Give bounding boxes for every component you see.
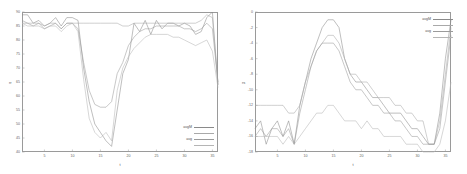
y-tick-label: 0 (251, 10, 253, 14)
x-tick-label: 15 (331, 154, 335, 158)
y-tick-label: 40 (16, 150, 20, 154)
x-tick-label: 10 (303, 154, 307, 158)
x-tick-label: 30 (415, 154, 419, 158)
right-panel: 51015202530350-2-4-6-8-10-12-14-16-18 t … (233, 0, 467, 174)
series-line-avg (22, 20, 218, 107)
x-tick-label: 25 (387, 154, 391, 158)
legend-label: avg (172, 137, 194, 141)
x-tick-label: 15 (98, 154, 102, 158)
y-tick-label: 85 (16, 24, 20, 28)
y-tick-label: -14 (248, 119, 253, 123)
legend-swatch (194, 145, 214, 146)
y-tick-label: -4 (250, 41, 253, 45)
y-tick-label: 75 (16, 52, 20, 56)
y-tick-label: 60 (16, 94, 20, 98)
left-legend: avgMavg (172, 124, 214, 148)
y-tick-label: 65 (16, 80, 20, 84)
x-tick-label: 10 (70, 154, 74, 158)
legend-label: avgM (172, 125, 194, 129)
y-tick-label: 50 (16, 122, 20, 126)
legend-label: avgM (411, 17, 433, 21)
right-y-axis-title: rs (242, 80, 245, 85)
legend-swatch (433, 37, 453, 38)
legend-swatch (194, 127, 214, 128)
y-tick-label: 80 (16, 38, 20, 42)
y-tick-label: 45 (16, 136, 20, 140)
series-line-series-4 (255, 82, 451, 152)
right-x-axis-title: t (352, 162, 353, 167)
x-tick-label: 35 (443, 154, 447, 158)
y-tick-label: -6 (250, 57, 253, 61)
y-tick-label: -8 (250, 72, 253, 76)
legend-swatch (194, 139, 214, 140)
x-tick-label: 5 (276, 154, 278, 158)
series-line-avg (255, 35, 451, 144)
y-tick-label: -18 (248, 150, 253, 154)
y-tick-label: 70 (16, 66, 20, 70)
legend-entry (172, 142, 214, 148)
right-legend: avgMavg (411, 16, 453, 40)
x-tick-label: 30 (182, 154, 186, 158)
left-panel: 51015202530354045505560657075808590 t rr… (0, 0, 233, 174)
x-tick-label: 25 (154, 154, 158, 158)
y-tick-label: -2 (250, 26, 253, 30)
left-x-axis-title: t (119, 162, 120, 167)
legend-swatch (433, 25, 453, 26)
legend-entry (411, 34, 453, 40)
x-tick-label: 35 (210, 154, 214, 158)
y-tick-label: 55 (16, 108, 20, 112)
x-tick-label: 5 (43, 154, 45, 158)
y-tick-label: 90 (16, 10, 20, 14)
left-y-axis-title: rr (9, 80, 12, 85)
legend-swatch (194, 133, 214, 134)
y-tick-label: -12 (248, 103, 253, 107)
x-tick-label: 20 (126, 154, 130, 158)
legend-swatch (433, 19, 453, 20)
figure-container: 51015202530354045505560657075808590 t rr… (0, 0, 467, 174)
y-tick-label: -10 (248, 88, 253, 92)
y-tick-label: -16 (248, 134, 253, 138)
legend-label: avg (411, 29, 433, 33)
legend-swatch (433, 31, 453, 32)
x-tick-label: 20 (359, 154, 363, 158)
